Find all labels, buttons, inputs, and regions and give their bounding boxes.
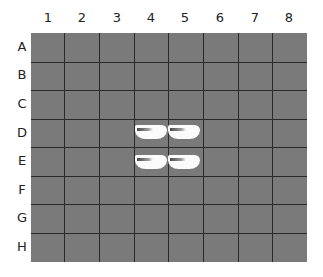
piece-notch-icon xyxy=(137,158,153,161)
grid-line xyxy=(31,176,307,177)
column-label-6: 6 xyxy=(203,10,237,25)
row-label-g: G xyxy=(14,210,30,225)
piece-d4[interactable] xyxy=(135,125,167,139)
column-label-2: 2 xyxy=(65,10,99,25)
row-label-b: B xyxy=(14,67,30,82)
row-label-d: D xyxy=(14,125,30,140)
column-label-5: 5 xyxy=(168,10,202,25)
piece-notch-icon xyxy=(170,158,186,161)
grid-line xyxy=(31,90,307,91)
row-label-c: C xyxy=(14,96,30,111)
piece-d5[interactable] xyxy=(168,125,200,139)
grid-line xyxy=(31,62,307,63)
grid-line xyxy=(31,204,307,205)
row-label-e: E xyxy=(14,153,30,168)
grid-line xyxy=(31,233,307,234)
column-label-4: 4 xyxy=(134,10,168,25)
piece-notch-icon xyxy=(170,128,186,131)
grid-line xyxy=(31,119,307,120)
row-label-a: A xyxy=(14,39,30,54)
column-label-1: 1 xyxy=(31,10,65,25)
row-label-h: H xyxy=(14,239,30,254)
piece-e4[interactable] xyxy=(135,155,167,169)
column-label-3: 3 xyxy=(100,10,134,25)
row-label-f: F xyxy=(14,182,30,197)
column-label-8: 8 xyxy=(272,10,306,25)
grid-line xyxy=(31,147,307,148)
piece-notch-icon xyxy=(137,128,153,131)
column-label-7: 7 xyxy=(238,10,272,25)
piece-e5[interactable] xyxy=(168,155,200,169)
